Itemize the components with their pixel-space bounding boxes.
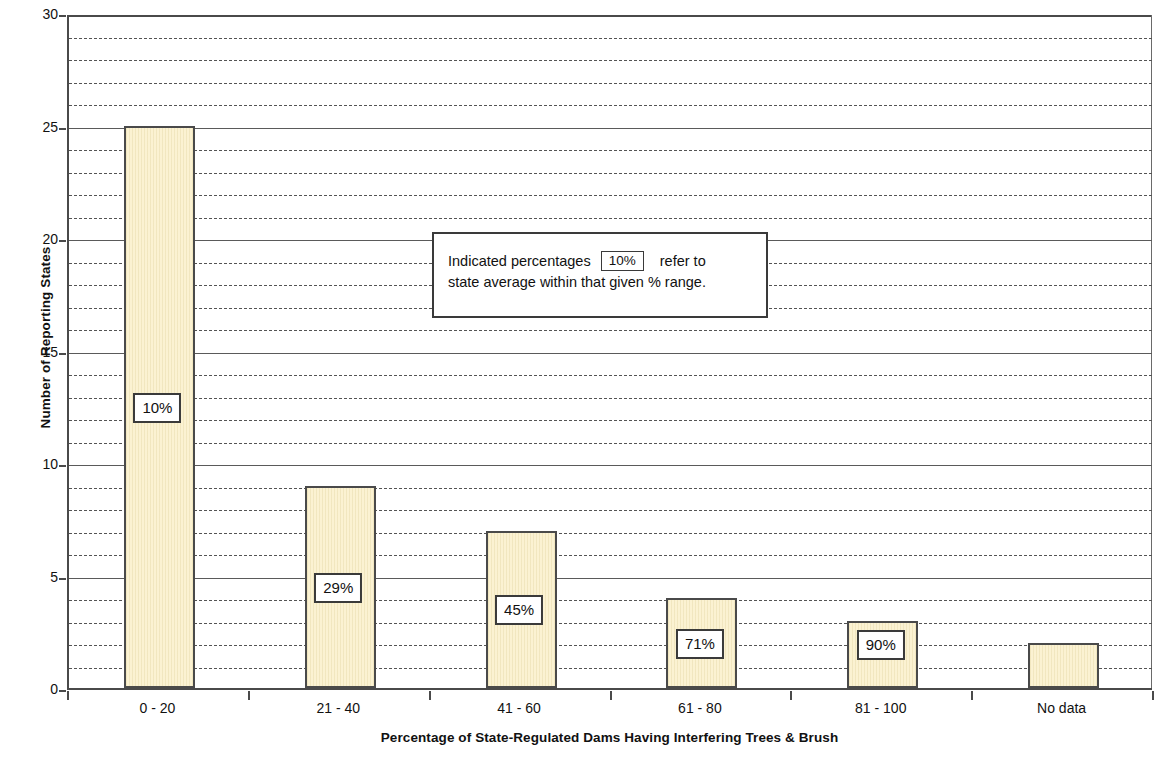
gridline-minor: [69, 420, 1152, 421]
annotation-text-suffix: refer to: [660, 253, 706, 269]
gridline-major: [69, 353, 1152, 354]
gridline-minor: [69, 443, 1152, 444]
plot-right-border: [1151, 15, 1152, 688]
gridline-minor: [69, 623, 1152, 624]
gridline-minor: [69, 600, 1152, 601]
annotation-swatch: 10%: [601, 251, 644, 271]
gridline-minor: [69, 375, 1152, 376]
y-tick-label: 30: [12, 6, 58, 22]
x-tick-label: No data: [1037, 700, 1086, 716]
y-tick-mark: [59, 690, 66, 692]
gridline-minor: [69, 398, 1152, 399]
x-tick-label: 0 - 20: [140, 700, 176, 716]
y-tick-mark: [59, 128, 66, 130]
y-tick-label: 5: [12, 569, 58, 585]
gridline-minor: [69, 38, 1152, 39]
y-tick-label: 20: [12, 231, 58, 247]
gridline-minor: [69, 173, 1152, 174]
y-tick-label: 25: [12, 119, 58, 135]
x-axis-title: Percentage of State-Regulated Dams Havin…: [67, 730, 1152, 745]
x-tick-mark: [429, 691, 431, 700]
gridline-minor: [69, 555, 1152, 556]
annotation-line-1: Indicated percentages 10% refer to: [448, 251, 752, 272]
x-tick-mark: [610, 691, 612, 700]
annotation-text-prefix: Indicated percentages: [448, 253, 591, 269]
chart-root: Number of Reporting States 051015202530 …: [0, 0, 1158, 758]
y-tick-mark: [59, 15, 66, 17]
gridline-minor: [69, 668, 1152, 669]
bar-data-label: 90%: [857, 630, 905, 660]
gridline-minor: [69, 150, 1152, 151]
annotation-line-2: state average within that given % range.: [448, 272, 752, 293]
plot-top-border: [69, 15, 1152, 17]
x-tick-mark: [971, 691, 973, 700]
y-tick-mark: [59, 353, 66, 355]
y-tick-label: 0: [12, 681, 58, 697]
gridline-minor: [69, 60, 1152, 61]
bar[interactable]: [1028, 643, 1099, 688]
y-tick-label: 15: [12, 344, 58, 360]
x-tick-label: 81 - 100: [855, 700, 906, 716]
bar-data-label: 10%: [133, 393, 181, 423]
gridline-minor: [69, 510, 1152, 511]
gridline-minor: [69, 218, 1152, 219]
bar-data-label: 45%: [495, 595, 543, 625]
y-tick-label: 10: [12, 456, 58, 472]
gridline-minor: [69, 533, 1152, 534]
x-tick-label: 21 - 40: [316, 700, 360, 716]
bar-data-label: 29%: [314, 573, 362, 603]
gridline-minor: [69, 645, 1152, 646]
plot-area: [67, 15, 1152, 690]
x-tick-mark: [1152, 691, 1154, 700]
annotation-box: Indicated percentages 10% refer to state…: [432, 232, 768, 318]
gridline-major: [69, 128, 1152, 129]
y-tick-mark: [59, 240, 66, 242]
x-tick-mark: [790, 691, 792, 700]
x-tick-label: 41 - 60: [497, 700, 541, 716]
x-tick-label: 61 - 80: [678, 700, 722, 716]
y-tick-mark: [59, 578, 66, 580]
y-tick-mark: [59, 465, 66, 467]
gridline-minor: [69, 83, 1152, 84]
x-tick-mark: [67, 691, 69, 700]
x-tick-mark: [248, 691, 250, 700]
bar-data-label: 71%: [676, 629, 724, 659]
gridline-minor: [69, 330, 1152, 331]
gridline-major: [69, 578, 1152, 579]
gridline-major: [69, 465, 1152, 466]
gridline-minor: [69, 488, 1152, 489]
gridline-minor: [69, 105, 1152, 106]
gridline-minor: [69, 195, 1152, 196]
